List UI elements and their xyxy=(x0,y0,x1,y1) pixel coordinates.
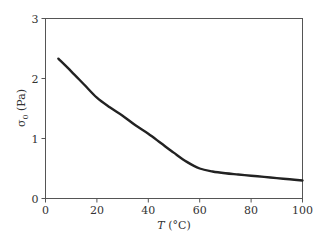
data-line xyxy=(58,59,302,181)
x-tick-label: 0 xyxy=(42,204,49,217)
x-tick-label: 40 xyxy=(141,204,155,217)
x-axis-ticks: 020406080100 xyxy=(42,199,313,217)
plot-border xyxy=(46,19,303,199)
line-chart: 020406080100 0123 T (°C) σ0 (Pa) xyxy=(0,0,329,243)
y-tick-label: 1 xyxy=(32,133,39,146)
y-tick-label: 2 xyxy=(32,73,39,86)
y-axis-ticks: 0123 xyxy=(32,13,46,206)
y-tick-label: 0 xyxy=(32,193,39,206)
x-tick-label: 20 xyxy=(90,204,104,217)
x-tick-label: 100 xyxy=(292,204,313,217)
plot-frame xyxy=(46,19,303,199)
x-tick-label: 60 xyxy=(193,204,207,217)
x-tick-label: 80 xyxy=(244,204,258,217)
y-axis-label: σ0 (Pa) xyxy=(15,89,30,127)
y-tick-label: 3 xyxy=(32,13,39,26)
x-axis-label: T (°C) xyxy=(157,219,190,232)
